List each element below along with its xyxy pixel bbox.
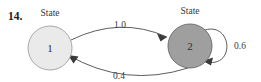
- edge-state2-to-state1: 0.4: [68, 55, 188, 81]
- state-1-label: 1: [47, 42, 53, 54]
- state-2-caption: State: [181, 6, 200, 16]
- state-transition-diagram: 14. 1.0 0.4 0.6 State 1 State: [0, 0, 261, 82]
- exercise-number: 14.: [8, 10, 23, 22]
- node-state-1: State 1: [28, 8, 72, 70]
- edge-state1-to-state2: 1.0: [71, 20, 167, 42]
- state-1-caption: State: [41, 8, 60, 18]
- state-2-label: 2: [187, 40, 193, 52]
- edge-2-to-1-path: [68, 55, 188, 76]
- edge-2-self-loop-label: 0.6: [234, 41, 246, 51]
- markov-chain-figure: 14. 1.0 0.4 0.6 State 1 State: [0, 0, 261, 82]
- edge-2-to-1-label: 0.4: [113, 71, 125, 81]
- edge-1-to-2-label: 1.0: [114, 20, 126, 30]
- node-state-2: State 2: [168, 6, 212, 68]
